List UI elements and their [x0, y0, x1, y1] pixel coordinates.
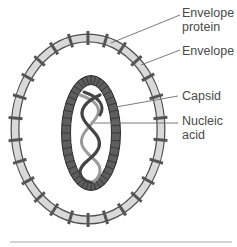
nucleic-acid-helix	[80, 92, 102, 183]
leader-capsid	[116, 96, 178, 107]
leader-envelope	[141, 50, 180, 65]
label-line: protein	[182, 20, 234, 34]
envelope-protein-spike	[153, 117, 167, 118]
label-capsid: Capsid	[182, 89, 221, 103]
label-envelope-protein: Envelope protein	[182, 6, 234, 34]
envelope-protein-spike	[9, 117, 23, 118]
leader-envelope-protein	[111, 15, 180, 43]
label-envelope: Envelope	[182, 44, 234, 58]
envelope-protein-spike	[9, 139, 23, 140]
envelope-protein-spike	[154, 139, 168, 140]
leader-lines	[94, 15, 180, 123]
label-line: Envelope	[182, 6, 234, 20]
capsid	[62, 76, 121, 191]
label-line: Nucleic	[182, 114, 223, 128]
label-line: Capsid	[182, 89, 221, 103]
label-nucleic-acid: Nucleic acid	[182, 114, 223, 142]
label-line: Envelope	[182, 44, 234, 58]
label-line: acid	[182, 128, 223, 142]
virus-diagram: Envelope protein Envelope Capsid Nucleic…	[0, 0, 237, 247]
